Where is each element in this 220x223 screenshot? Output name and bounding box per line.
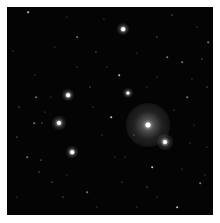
faint-star	[66, 16, 67, 17]
faint-star	[156, 196, 157, 197]
faint-star	[101, 134, 102, 135]
faint-star	[106, 66, 107, 67]
bright-star	[57, 121, 61, 125]
faint-star	[118, 74, 120, 76]
faint-star	[136, 52, 137, 53]
faint-star	[62, 196, 63, 197]
faint-star	[86, 191, 88, 193]
faint-star	[196, 26, 197, 27]
faint-star	[191, 78, 192, 79]
faint-star	[26, 156, 28, 158]
faint-star	[199, 182, 201, 184]
faint-star	[207, 41, 209, 43]
faint-star	[136, 206, 137, 207]
faint-star	[151, 166, 153, 168]
faint-star	[146, 86, 147, 87]
faint-star	[103, 18, 104, 19]
faint-star	[193, 124, 194, 125]
faint-star	[89, 86, 90, 87]
faint-star	[186, 96, 188, 98]
faint-star	[181, 168, 182, 169]
bright-star	[121, 27, 125, 31]
faint-star	[173, 109, 174, 110]
faint-star	[189, 142, 190, 143]
faint-star	[40, 159, 41, 160]
faint-star	[16, 136, 17, 137]
faint-star	[110, 116, 112, 118]
faint-star	[166, 56, 168, 58]
faint-star	[121, 181, 122, 182]
faint-star	[50, 96, 51, 97]
faint-star	[201, 58, 202, 59]
bright-star	[163, 140, 167, 144]
faint-star	[181, 61, 183, 63]
faint-star	[206, 146, 207, 147]
faint-star	[95, 51, 96, 52]
faint-star	[34, 74, 35, 75]
faint-star	[33, 122, 35, 124]
faint-star	[51, 181, 52, 182]
star-field-image: Astronomical star field with a bright di…	[7, 7, 213, 215]
bright-star	[146, 123, 151, 128]
faint-star	[41, 122, 42, 123]
faint-star	[76, 36, 78, 38]
faint-star	[12, 50, 13, 51]
faint-star	[44, 111, 45, 112]
faint-star	[76, 66, 77, 67]
faint-star	[92, 106, 93, 107]
faint-star	[204, 174, 205, 175]
faint-star	[16, 196, 17, 197]
faint-star	[114, 156, 115, 157]
faint-star	[156, 36, 157, 37]
faint-star	[35, 96, 37, 98]
faint-star	[18, 106, 19, 107]
faint-star	[156, 76, 157, 77]
faint-star	[171, 14, 172, 15]
bright-star	[66, 93, 70, 97]
faint-star	[96, 206, 97, 207]
faint-star	[124, 156, 125, 157]
faint-star	[66, 174, 67, 175]
faint-star	[54, 46, 55, 47]
bright-star	[70, 150, 74, 154]
faint-star	[176, 206, 178, 208]
faint-star	[206, 86, 207, 87]
faint-star	[146, 186, 147, 187]
faint-star	[27, 11, 29, 13]
faint-star	[38, 171, 39, 172]
